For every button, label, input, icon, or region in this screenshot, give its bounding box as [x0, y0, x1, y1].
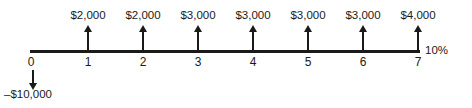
outflow-arrow-0	[32, 70, 34, 84]
inflow-arrow-2	[142, 31, 144, 52]
period-label-0: 0	[21, 56, 41, 68]
inflow-label-1: $2,000	[60, 10, 116, 22]
cash-flow-timeline-diagram: 0 1 2 3 4 5 6 7 $2,000 $2,000 $3,000 $3,…	[0, 0, 472, 108]
period-label-7: 7	[408, 56, 428, 68]
period-label-5: 5	[298, 56, 318, 68]
inflow-label-7: $4,000	[390, 10, 446, 22]
period-label-2: 2	[133, 56, 153, 68]
inflow-label-2: $2,000	[115, 10, 171, 22]
period-label-6: 6	[353, 56, 373, 68]
interest-rate-label: 10%	[425, 45, 448, 57]
inflow-label-3: $3,000	[170, 10, 226, 22]
outflow-label-0: –$10,000	[4, 89, 52, 101]
inflow-label-4: $3,000	[225, 10, 281, 22]
period-label-4: 4	[243, 56, 263, 68]
period-label-3: 3	[188, 56, 208, 68]
inflow-label-6: $3,000	[335, 10, 391, 22]
inflow-arrow-1	[87, 31, 89, 52]
inflow-arrow-4	[252, 31, 254, 52]
period-label-1: 1	[78, 56, 98, 68]
inflow-arrow-5	[307, 31, 309, 52]
inflow-arrow-3	[197, 31, 199, 52]
inflow-arrow-6	[362, 31, 364, 52]
inflow-arrow-7	[417, 31, 419, 52]
inflow-label-5: $3,000	[280, 10, 336, 22]
